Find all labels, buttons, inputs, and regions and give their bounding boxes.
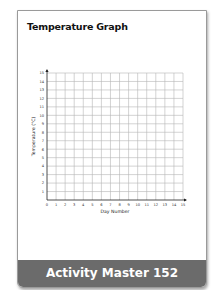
y-tick-label: 10 xyxy=(39,114,44,118)
x-tick-label: 1 xyxy=(55,203,57,207)
x-tick-label: 12 xyxy=(154,203,159,207)
y-tick-label: 7 xyxy=(42,139,44,143)
x-tick-label: 9 xyxy=(127,203,130,207)
activity-card: Temperature Graph 0123456789101112131415… xyxy=(17,10,207,288)
y-axis-arrow-icon xyxy=(45,69,48,72)
x-tick-label: 4 xyxy=(82,203,85,207)
x-tick-label: 0 xyxy=(46,203,49,207)
x-tick-label: 15 xyxy=(181,203,186,207)
x-tick-label: 10 xyxy=(135,203,140,207)
x-tick-label: 3 xyxy=(73,203,75,207)
y-tick-label: 11 xyxy=(39,105,44,109)
x-axis-label: Day Number xyxy=(101,209,130,214)
x-tick-label: 2 xyxy=(64,203,66,207)
x-tick-label: 5 xyxy=(91,203,93,207)
x-tick-label: 11 xyxy=(144,203,149,207)
y-tick-label: 14 xyxy=(39,80,44,84)
x-tick-label: 6 xyxy=(100,203,103,207)
x-tick-label: 14 xyxy=(172,203,177,207)
y-tick-label: 1 xyxy=(42,190,44,194)
y-tick-label: 9 xyxy=(42,122,45,126)
y-tick-label: 8 xyxy=(42,131,45,135)
footer-band: Activity Master 152 xyxy=(18,260,206,287)
x-tick-label: 13 xyxy=(163,203,168,207)
y-tick-label: 3 xyxy=(42,173,44,177)
x-axis-arrow-icon xyxy=(184,198,187,201)
y-axis-label: Temperature (°C) xyxy=(31,116,36,157)
y-tick-label: 6 xyxy=(42,148,45,152)
y-tick-label: 12 xyxy=(39,97,44,101)
x-tick-label: 8 xyxy=(118,203,121,207)
y-tick-label: 4 xyxy=(42,164,45,168)
y-tick-label: 15 xyxy=(39,71,44,75)
y-tick-label: 13 xyxy=(39,88,44,92)
x-tick-label: 7 xyxy=(109,203,111,207)
y-tick-label: 5 xyxy=(42,156,44,160)
temperature-chart: 0123456789101112131415123456789101112131… xyxy=(18,11,206,261)
y-tick-label: 2 xyxy=(42,181,44,185)
